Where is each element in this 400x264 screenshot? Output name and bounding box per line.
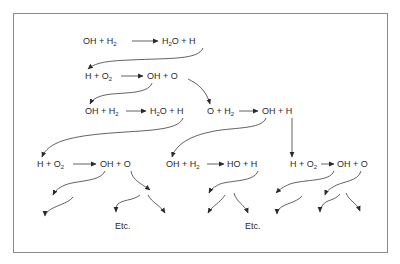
branch-arrow — [209, 171, 258, 193]
branch-arrow — [276, 171, 334, 193]
reaction-5-rhs: OH + O — [100, 159, 131, 169]
reaction-5-lhs: H + O2 — [37, 159, 65, 170]
chain-arrow — [90, 83, 152, 104]
reaction-6: OH + H2 HO + H — [166, 159, 257, 170]
reaction-4-rhs: OH + H — [262, 106, 292, 116]
reaction-3-rhs: H2O + H — [150, 106, 184, 117]
reaction-4-lhs: O + H2 — [207, 106, 235, 117]
branch-arrow — [116, 195, 140, 212]
chain-arrow — [88, 48, 203, 69]
branch-arrow — [131, 171, 150, 190]
reaction-chain-diagram: OH + H2 H2O + H H + O2 OH + O OH + H2 H2… — [0, 0, 400, 264]
reaction-2-lhs: H + O2 — [85, 71, 113, 82]
chain-arrow — [172, 118, 266, 157]
reaction-1: OH + H2 H2O + H — [83, 36, 196, 47]
branch-arrow — [45, 197, 73, 216]
branch-arrow — [208, 195, 225, 213]
reaction-7-lhs: H + O2 — [290, 159, 318, 170]
reaction-7: H + O2 OH + O — [290, 159, 368, 170]
reaction-1-rhs: H2O + H — [162, 36, 196, 47]
branch-arrow — [325, 171, 361, 195]
reaction-7-rhs: OH + O — [337, 159, 368, 169]
branch-arrow — [277, 196, 302, 214]
branch-arrow — [148, 195, 165, 213]
reaction-6-lhs: OH + H2 — [166, 159, 200, 170]
reaction-3-lhs: OH + H2 — [85, 106, 119, 117]
chain-arrow — [42, 118, 183, 157]
reaction-2: H + O2 OH + O — [85, 71, 178, 82]
reaction-1-lhs: OH + H2 — [83, 36, 117, 47]
etc-label-2: Etc. — [245, 221, 261, 231]
reaction-3: OH + H2 H2O + H — [85, 106, 184, 117]
reaction-5: H + O2 OH + O — [37, 159, 131, 170]
reaction-6-rhs: HO + H — [227, 159, 257, 169]
reaction-4: O + H2 OH + H — [207, 106, 292, 117]
branch-arrow — [53, 171, 105, 195]
etc-label-1: Etc. — [115, 221, 131, 231]
branch-arrow — [320, 194, 340, 212]
reaction-2-rhs: OH + O — [147, 71, 178, 81]
chain-arrow — [188, 79, 210, 104]
branch-arrow — [346, 193, 360, 211]
branch-arrow — [234, 193, 248, 213]
